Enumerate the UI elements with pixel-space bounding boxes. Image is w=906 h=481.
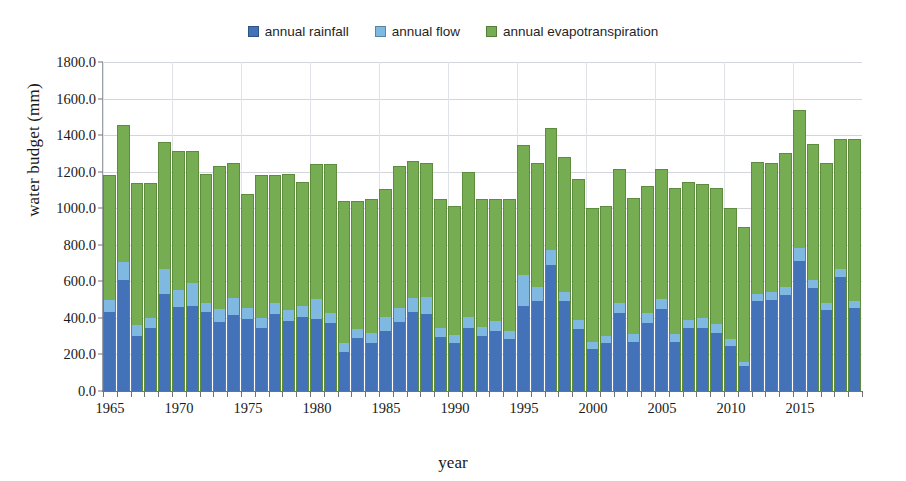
bar-column[interactable] (144, 62, 158, 391)
bar-column[interactable] (682, 62, 696, 391)
bar-column[interactable] (158, 62, 172, 391)
bar-column[interactable] (669, 62, 683, 391)
bar-segment-flow (724, 339, 737, 346)
bar-column[interactable] (765, 62, 779, 391)
y-tick-mark (98, 98, 103, 99)
bar-column[interactable] (848, 62, 862, 391)
bar-column[interactable] (213, 62, 227, 391)
x-tick-mark (503, 391, 504, 397)
bar-segment-evapotranspiration (103, 175, 116, 299)
bar-column[interactable] (710, 62, 724, 391)
bar-column[interactable] (338, 62, 352, 391)
bar-column[interactable] (476, 62, 490, 391)
bar-column[interactable] (641, 62, 655, 391)
bar-stack (848, 62, 861, 391)
x-tick-mark (324, 391, 325, 397)
bar-column[interactable] (324, 62, 338, 391)
bar-segment-evapotranspiration (213, 166, 226, 309)
bar-column[interactable] (186, 62, 200, 391)
bar-column[interactable] (627, 62, 641, 391)
bar-column[interactable] (269, 62, 283, 391)
bar-column[interactable] (503, 62, 517, 391)
bar-column[interactable] (296, 62, 310, 391)
bar-column[interactable] (434, 62, 448, 391)
bar-stack (310, 62, 323, 391)
y-tick-label: 1600.0 (56, 90, 96, 107)
bar-stack (158, 62, 171, 391)
bar-segment-flow (144, 318, 157, 328)
bar-segment-flow (420, 297, 433, 314)
bar-column[interactable] (282, 62, 296, 391)
bar-column[interactable] (696, 62, 710, 391)
bar-column[interactable] (227, 62, 241, 391)
bar-stack (379, 62, 392, 391)
bar-column[interactable] (448, 62, 462, 391)
bar-segment-flow (517, 275, 530, 306)
bar-segment-evapotranspiration (531, 163, 544, 287)
bar-segment-flow (393, 308, 406, 323)
bar-column[interactable] (462, 62, 476, 391)
bar-segment-rainfall (407, 312, 420, 391)
bar-segment-evapotranspiration (765, 163, 778, 293)
bar-segment-rainfall (227, 315, 240, 391)
bar-column[interactable] (200, 62, 214, 391)
y-tick-mark (98, 244, 103, 245)
bar-stack (351, 62, 364, 391)
bar-segment-evapotranspiration (269, 175, 282, 303)
bar-stack (338, 62, 351, 391)
bar-column[interactable] (751, 62, 765, 391)
bar-column[interactable] (310, 62, 324, 391)
bar-column[interactable] (558, 62, 572, 391)
bar-segment-rainfall (834, 277, 847, 391)
x-tick-mark (558, 391, 559, 397)
bar-segment-flow (834, 269, 847, 276)
x-tick-mark (200, 391, 201, 397)
bar-column[interactable] (255, 62, 269, 391)
bar-column[interactable] (531, 62, 545, 391)
bar-stack (296, 62, 309, 391)
x-tick-label: 1995 (509, 400, 538, 417)
bar-stack (448, 62, 461, 391)
bar-column[interactable] (172, 62, 186, 391)
bar-segment-evapotranspiration (131, 183, 144, 326)
bar-column[interactable] (117, 62, 131, 391)
bar-column[interactable] (724, 62, 738, 391)
legend-item-annual-evapotranspiration[interactable]: annual evapotranspiration (486, 24, 658, 39)
x-tick-mark (821, 391, 822, 397)
bar-column[interactable] (779, 62, 793, 391)
bar-column[interactable] (351, 62, 365, 391)
legend-item-annual-rainfall[interactable]: annual rainfall (248, 24, 349, 39)
bar-column[interactable] (807, 62, 821, 391)
bar-column[interactable] (365, 62, 379, 391)
bar-column[interactable] (834, 62, 848, 391)
bar-segment-flow (407, 298, 420, 313)
bar-segment-flow (103, 300, 116, 313)
bar-column[interactable] (489, 62, 503, 391)
bar-column[interactable] (393, 62, 407, 391)
legend-item-annual-flow[interactable]: annual flow (375, 24, 460, 39)
bar-segment-flow (558, 292, 571, 300)
bar-column[interactable] (572, 62, 586, 391)
bar-column[interactable] (655, 62, 669, 391)
bar-segment-rainfall (848, 308, 861, 391)
bar-segment-evapotranspiration (434, 199, 447, 328)
bar-column[interactable] (103, 62, 117, 391)
bar-column[interactable] (241, 62, 255, 391)
bar-column[interactable] (545, 62, 559, 391)
bar-column[interactable] (820, 62, 834, 391)
bar-series-container (103, 62, 862, 391)
bar-column[interactable] (793, 62, 807, 391)
bar-column[interactable] (379, 62, 393, 391)
bar-column[interactable] (738, 62, 752, 391)
bar-column[interactable] (613, 62, 627, 391)
bar-column[interactable] (600, 62, 614, 391)
y-tick-mark (98, 354, 103, 355)
bar-column[interactable] (586, 62, 600, 391)
x-tick-mark (393, 391, 394, 397)
bar-column[interactable] (407, 62, 421, 391)
x-tick-mark (172, 391, 173, 397)
bar-segment-rainfall (144, 328, 157, 391)
bar-column[interactable] (517, 62, 531, 391)
bar-column[interactable] (420, 62, 434, 391)
bar-column[interactable] (131, 62, 145, 391)
